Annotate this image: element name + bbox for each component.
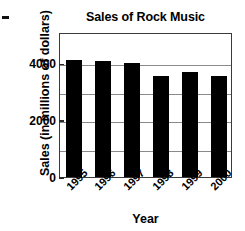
bar-1996: [95, 61, 111, 177]
y-tick-labels-group: 020004000: [14, 33, 56, 178]
plot-area: [59, 33, 232, 178]
bar-1995: [66, 60, 82, 177]
y-tick-label-0: 0: [49, 171, 56, 185]
y-tick-label-2000: 2000: [29, 114, 56, 128]
bar-chart-figure: Sales of Rock Music Sales (in millions o…: [0, 0, 245, 231]
bar-2000: [211, 76, 227, 178]
y-tick-mark-2000: [59, 120, 64, 122]
bar-1998: [153, 76, 169, 178]
bars-group: [60, 34, 231, 177]
corner-tick-mark: [2, 16, 9, 19]
bar-1999: [182, 72, 198, 177]
y-tick-label-4000: 4000: [29, 57, 56, 71]
y-tick-mark-4000: [59, 64, 64, 66]
bar-1997: [124, 63, 140, 177]
x-tick-labels-group: 199519961997199819992000: [59, 178, 232, 212]
chart-title: Sales of Rock Music: [59, 10, 232, 24]
x-axis-label: Year: [59, 212, 232, 226]
